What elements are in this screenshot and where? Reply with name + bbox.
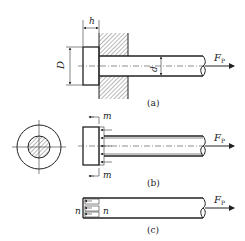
section-m-bottom: m bbox=[103, 170, 112, 180]
wall-hatch-bottom bbox=[99, 76, 128, 99]
dim-d-label: d bbox=[149, 66, 159, 72]
figure-c: n n FP (c) bbox=[75, 194, 234, 235]
figure-a: FP h D d (a) bbox=[55, 16, 234, 108]
force-label-c: FP bbox=[213, 194, 225, 206]
diagram-canvas: FP h D d (a) bbox=[0, 0, 245, 241]
wall-hatch-top bbox=[99, 33, 128, 56]
force-label-a: FP bbox=[213, 52, 225, 64]
force-label-b: FP bbox=[213, 132, 225, 144]
caption-c: (c) bbox=[147, 225, 159, 235]
section-n-right: n bbox=[103, 206, 109, 216]
section-m-top: m bbox=[103, 111, 112, 121]
cross-section-view bbox=[12, 120, 66, 174]
caption-b: (b) bbox=[147, 178, 160, 188]
caption-a: (a) bbox=[147, 98, 159, 108]
section-n-left: n bbox=[75, 206, 81, 216]
dim-D-label: D bbox=[55, 61, 66, 70]
figure-b: m m FP (b) bbox=[78, 111, 234, 188]
dim-h-label: h bbox=[89, 16, 95, 26]
